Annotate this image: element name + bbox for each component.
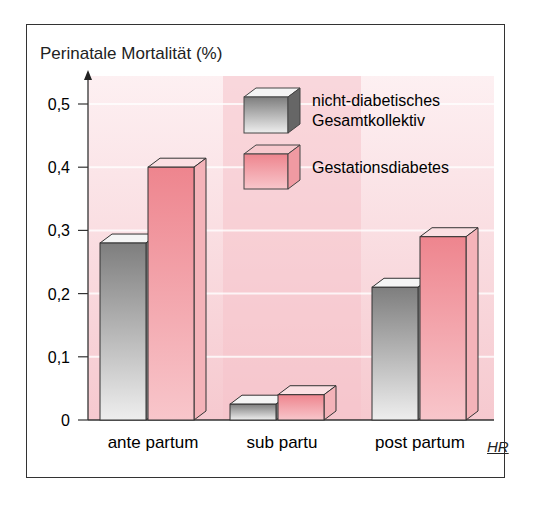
legend-label-red: Gestationsdiabetes <box>312 159 449 176</box>
legend-swatch-gray <box>244 88 300 133</box>
y-tick-label: 0 <box>61 412 70 429</box>
y-tick-label: 0,1 <box>48 349 70 366</box>
publisher-logo: HR <box>487 438 509 455</box>
y-tick-label: 0,3 <box>48 222 70 239</box>
bar-chart: 00,10,20,30,40,5 nicht-diabetisches Gesa… <box>0 0 539 517</box>
bar-gestationsdiabetes-1 <box>278 386 336 420</box>
y-tick-label: 0,2 <box>48 286 70 303</box>
y-axis-arrow-icon <box>84 70 92 80</box>
bar-gestationsdiabetes-2 <box>420 228 478 420</box>
y-tick-label: 0,5 <box>48 96 70 113</box>
x-label-post-partum: post partum <box>375 433 465 452</box>
x-label-sub-partu: sub partu <box>247 433 318 452</box>
legend-swatch-red <box>244 145 300 189</box>
x-label-ante-partum: ante partum <box>108 433 199 452</box>
legend-label-gray-2: Gesamtkollektiv <box>312 112 425 129</box>
legend-label-gray-1: nicht-diabetisches <box>312 92 440 109</box>
y-tick-label: 0,4 <box>48 159 70 176</box>
bar-gestationsdiabetes-0 <box>148 158 206 420</box>
